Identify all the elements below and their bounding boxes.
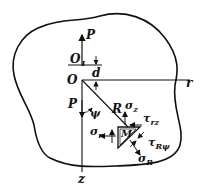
label-P-bottom: P <box>68 98 77 110</box>
label-z-axis: z <box>78 173 85 185</box>
diagram-canvas: P O1 d O r P ψ R σz τrz σr M τRψ σR z <box>0 0 203 189</box>
label-tau-rz: τrz <box>143 113 159 126</box>
label-O: O <box>67 74 77 86</box>
label-sigma-R: σR <box>138 153 153 166</box>
label-M: M <box>121 129 132 139</box>
label-r-axis: r <box>186 77 192 89</box>
label-R: R <box>112 103 122 115</box>
label-O1: O1 <box>70 53 86 67</box>
label-tau-Rpsi: τRψ <box>148 137 170 150</box>
label-sigma-z: σz <box>125 100 138 113</box>
label-d: d <box>92 67 100 79</box>
label-psi: ψ <box>90 108 100 119</box>
diagram-svg <box>0 0 203 189</box>
label-P-top: P <box>86 29 95 41</box>
label-sigma-r: σr <box>90 126 102 139</box>
